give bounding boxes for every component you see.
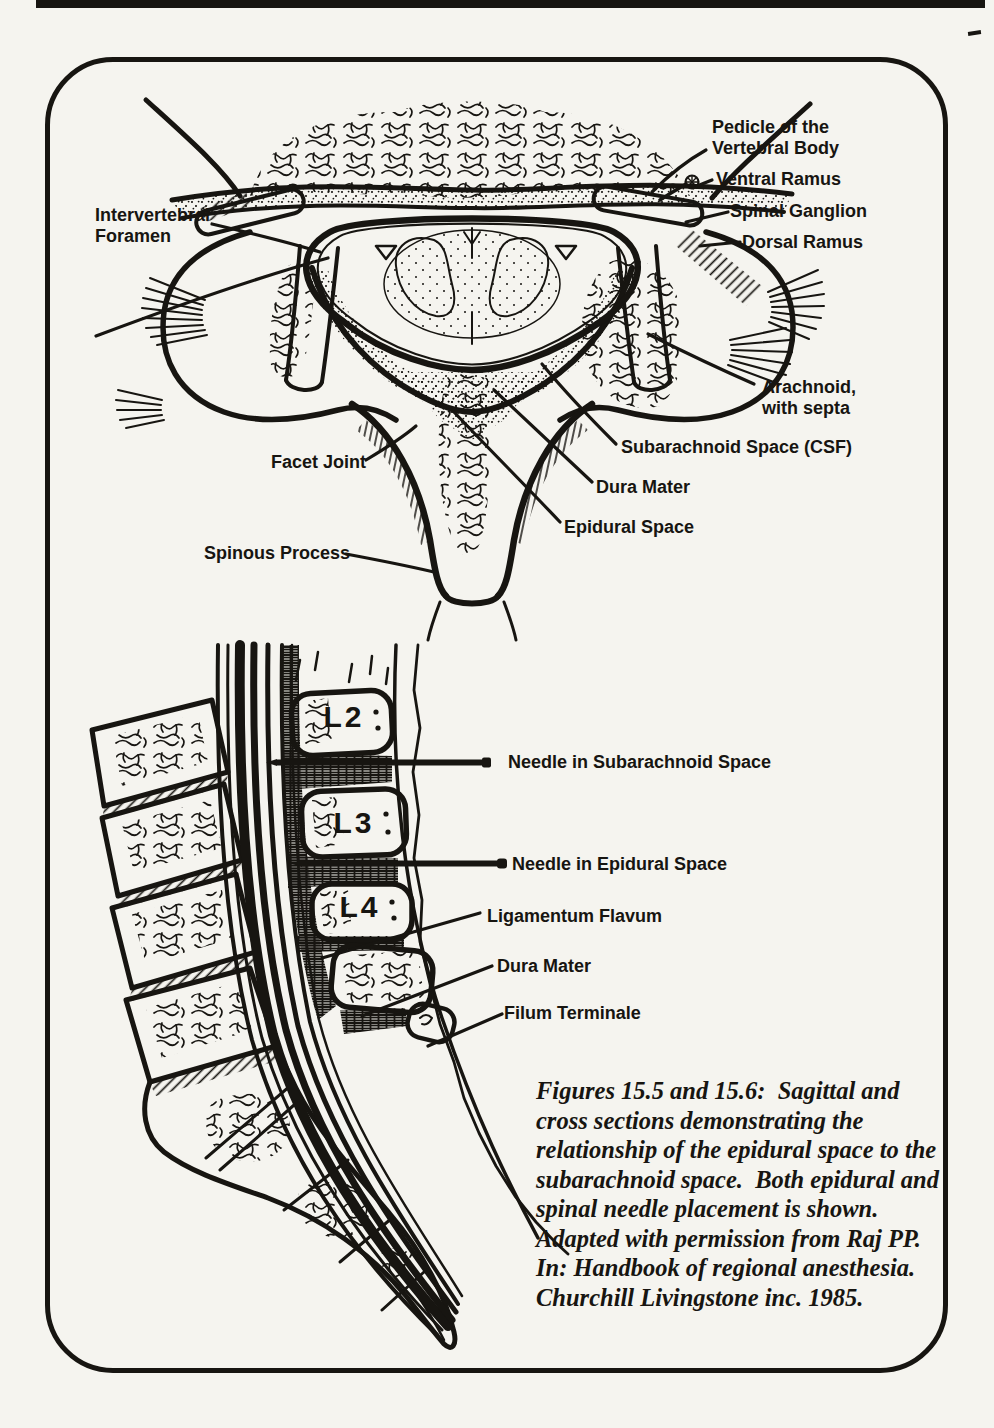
muscle-outline-left	[146, 100, 240, 196]
leader-spinal-ganglion	[686, 212, 728, 222]
label-dorsal-ramus: Dorsal Ramus	[742, 232, 863, 253]
hatch-fan-left-lower	[116, 390, 164, 428]
label-dura-mater-top: Dura Mater	[596, 477, 690, 498]
sacrum	[145, 1046, 455, 1347]
label-spinous-process: Spinous Process	[204, 543, 350, 564]
label-spinal-ganglion: Spinal Ganglion	[730, 201, 867, 222]
label-needle-epidural: Needle in Epidural Space	[512, 854, 727, 875]
label-filum-terminale: Filum Terminale	[504, 1003, 641, 1024]
label-needle-subarachnoid: Needle in Subarachnoid Space	[508, 752, 771, 773]
figure-caption: Figures 15.5 and 15.6: Sagittal and cros…	[536, 1076, 976, 1312]
leader-spinous-process	[346, 554, 434, 572]
vertebra-label-l2: L2	[306, 700, 382, 734]
hatch-fan-left-outer	[142, 278, 207, 345]
label-ligamentum-flavum: Ligamentum Flavum	[487, 906, 662, 927]
label-epidural-space: Epidural Space	[564, 517, 694, 538]
vertebra-label-l4: L4	[322, 890, 398, 924]
label-arachnoid: Arachnoid, with septa	[762, 377, 856, 419]
scanned-page: Pedicle of the Vertebral Body Ventral Ra…	[0, 0, 994, 1428]
vertebra-label-l3: L3	[316, 806, 392, 840]
label-dura-mater-bottom: Dura Mater	[497, 956, 591, 977]
label-pedicle: Pedicle of the Vertebral Body	[712, 117, 839, 159]
label-facet-joint: Facet Joint	[271, 452, 366, 473]
hatch-fan-right-outer	[768, 270, 824, 339]
label-subarachnoid-space: Subarachnoid Space (CSF)	[621, 437, 852, 458]
sagittal-figure	[92, 645, 568, 1347]
denticulate-ligament-left	[376, 246, 396, 259]
skin-line-inner	[395, 645, 538, 1238]
tissue-dashes	[296, 652, 388, 684]
denticulate-ligament-right	[556, 246, 576, 259]
label-intervertebral-foramen: Intervertebral Foramen	[95, 205, 210, 247]
label-ventral-ramus: Ventral Ramus	[716, 169, 841, 190]
